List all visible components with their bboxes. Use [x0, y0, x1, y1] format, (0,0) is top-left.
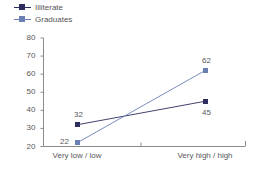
x-tick-label: Very low / low	[32, 151, 122, 160]
data-point-marker	[75, 140, 80, 145]
plot-area	[0, 0, 256, 173]
y-tick-label: 60	[18, 70, 36, 78]
data-point-value-label: 22	[60, 138, 69, 146]
data-point-marker	[75, 122, 80, 127]
y-tick-label: 30	[18, 124, 36, 132]
data-point-marker	[203, 99, 208, 104]
y-tick-label: 80	[18, 34, 36, 42]
axis-lines	[44, 38, 246, 147]
y-tick-label: 40	[18, 106, 36, 114]
series-line-illiterate	[77, 101, 205, 125]
x-tick-label: Very high / high	[160, 151, 250, 160]
data-point-value-label: 62	[202, 57, 211, 65]
y-tick-label: 50	[18, 88, 36, 96]
series-lines	[77, 71, 205, 143]
data-point-marker	[203, 68, 208, 73]
data-point-value-label: 32	[74, 111, 83, 119]
line-chart: Illiterate Graduates 20304050607080 Very…	[0, 0, 256, 173]
y-tick-label: 20	[18, 143, 36, 151]
y-tick-label: 70	[18, 52, 36, 60]
series-line-graduates	[77, 71, 205, 143]
data-point-value-label: 45	[202, 109, 211, 117]
